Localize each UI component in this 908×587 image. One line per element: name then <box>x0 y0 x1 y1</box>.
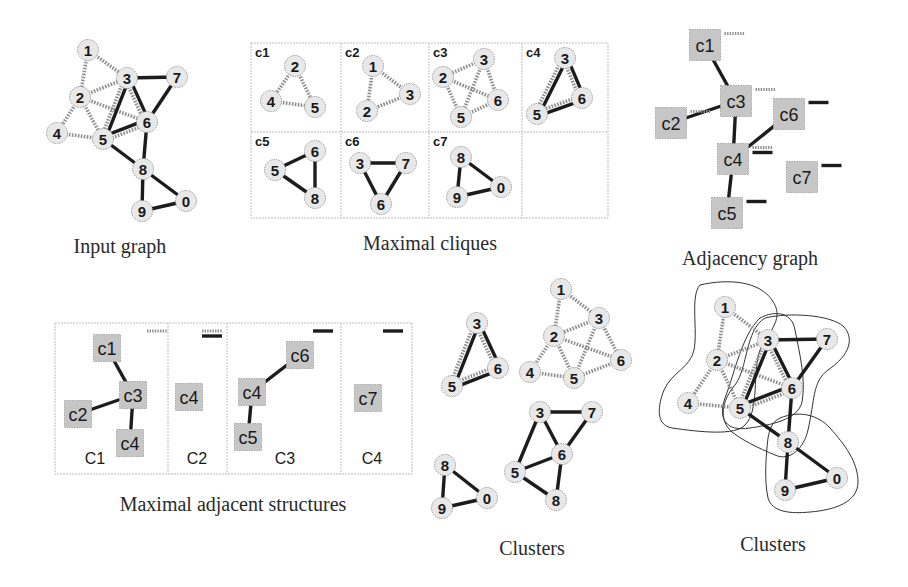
clique-box-c3: c3 <box>721 86 752 117</box>
clique-box-c3: c3 <box>120 382 147 409</box>
node-label: 3 <box>595 310 603 327</box>
graph-node-1: 1 <box>551 279 572 300</box>
clique-cell-label: c2 <box>345 45 359 60</box>
nodes: 809 <box>447 147 512 208</box>
node-label: 5 <box>457 109 465 126</box>
nodes: 3265 <box>433 49 509 128</box>
clique-box-c6: c6 <box>287 342 314 369</box>
clique-box-c1: c1 <box>690 30 721 61</box>
graph-node-6: 6 <box>488 358 509 379</box>
clique-cell-c1: c1245 <box>255 45 326 118</box>
node-label: 8 <box>457 149 465 166</box>
graph-node-5: 5 <box>93 129 114 150</box>
clique-cell-label: c3 <box>433 45 447 60</box>
clique-box-c4: c4 <box>176 384 203 411</box>
clusters-separate-caption: Clusters <box>499 537 565 559</box>
clique-box-c1: c1 <box>94 335 121 362</box>
node-label: 9 <box>138 203 146 220</box>
maximal-adjacent-structures-panel: c1c3c2c4C1c4C2c6c4c5C3c7C4 <box>55 323 412 474</box>
node-label: 4 <box>53 125 62 142</box>
clique-cell-c7: c7809 <box>433 134 512 208</box>
graph-node-3: 3 <box>350 153 371 174</box>
clusters-overlay-panel: 1372645809 <box>659 282 858 513</box>
node-label: 1 <box>84 42 92 59</box>
nodes: 245 <box>261 56 326 118</box>
clique-box-c7: c7 <box>787 162 818 193</box>
box-label: c6 <box>779 105 798 125</box>
node-label: 1 <box>721 299 729 316</box>
clique-box-c4: c4 <box>117 430 144 457</box>
node-label: 3 <box>123 70 131 87</box>
nodes: 809 <box>432 455 498 519</box>
graph-node-8: 8 <box>435 455 456 476</box>
graph-node-3: 3 <box>589 308 610 329</box>
node-label: 2 <box>363 103 371 120</box>
node-label: 8 <box>311 190 319 207</box>
graph-node-7: 7 <box>167 67 188 88</box>
graph-node-8: 8 <box>451 147 472 168</box>
maximal-adjacent-structures-caption: Maximal adjacent structures <box>120 493 347 516</box>
graph-node-4: 4 <box>47 123 68 144</box>
node-label: 3 <box>764 332 772 349</box>
graph-node-7: 7 <box>582 402 603 423</box>
graph-node-5: 5 <box>305 97 326 118</box>
adjacency-graph-panel: c1c3c2c6c4c7c5 <box>656 30 842 229</box>
cluster-356: 365 <box>442 313 509 397</box>
graph-node-8: 8 <box>778 432 799 453</box>
figure-canvas: 1372645809 c1245c2132c33265c4365c5658c63… <box>0 0 908 587</box>
node-label: 5 <box>311 99 319 116</box>
box-label: c5 <box>238 428 257 448</box>
box-label: c5 <box>717 204 736 224</box>
graph-node-6: 6 <box>611 350 632 371</box>
graph-node-5: 5 <box>265 160 286 181</box>
graph-node-0: 0 <box>491 177 512 198</box>
clique-box-c4: c4 <box>239 379 266 406</box>
node-label: 7 <box>588 404 596 421</box>
graph-node-4: 4 <box>520 362 541 383</box>
graph-node-5: 5 <box>442 376 463 397</box>
box-label: c6 <box>290 346 309 366</box>
node-label: 2 <box>713 352 721 369</box>
clique-cell-c3: c33265 <box>433 45 509 128</box>
clique-cell-label: c6 <box>345 134 359 149</box>
node-label: 5 <box>511 464 519 481</box>
graph-node-9: 9 <box>775 480 796 501</box>
box-label: c2 <box>68 405 87 425</box>
node-label: 0 <box>497 179 505 196</box>
node-label: 8 <box>784 434 792 451</box>
box-label: c1 <box>695 36 714 56</box>
graph-node-2: 2 <box>70 87 91 108</box>
node-label: 0 <box>182 193 190 210</box>
node-label: 3 <box>406 86 414 103</box>
graph-node-5: 5 <box>505 462 526 483</box>
node-label: 5 <box>271 162 279 179</box>
box-label: c4 <box>179 388 198 408</box>
graph-node-2: 2 <box>544 326 565 347</box>
maximal-cliques-panel: c1245c2132c33265c4365c5658c6376c7809 <box>251 43 608 218</box>
clusters-overlay-caption: Clusters <box>740 533 806 555</box>
node-label: 9 <box>438 500 446 517</box>
node-label: 6 <box>578 90 586 107</box>
node-label: 9 <box>453 189 461 206</box>
graph-node-3: 3 <box>555 48 576 69</box>
node-label: 7 <box>402 155 410 172</box>
node-label: 9 <box>781 482 789 499</box>
graph-node-5: 5 <box>730 398 751 419</box>
clique-cell-c2: c2132 <box>345 45 421 122</box>
input-graph-panel: 1372645809 <box>47 40 197 222</box>
clique-box-c7: c7 <box>355 385 382 412</box>
node-label: 2 <box>550 328 558 345</box>
graph-node-5: 5 <box>451 107 472 128</box>
box-label: c1 <box>97 339 116 359</box>
graph-node-6: 6 <box>782 378 803 399</box>
node-label: 5 <box>736 400 744 417</box>
node-label: 3 <box>480 51 488 68</box>
graph-node-6: 6 <box>137 112 158 133</box>
graph-node-9: 9 <box>432 498 453 519</box>
graph-node-2: 2 <box>357 101 378 122</box>
node-label: 3 <box>356 155 364 172</box>
node-label: 8 <box>552 492 560 509</box>
box-label: c7 <box>792 168 811 188</box>
node-label: 8 <box>441 457 449 474</box>
graph-node-2: 2 <box>707 350 728 371</box>
